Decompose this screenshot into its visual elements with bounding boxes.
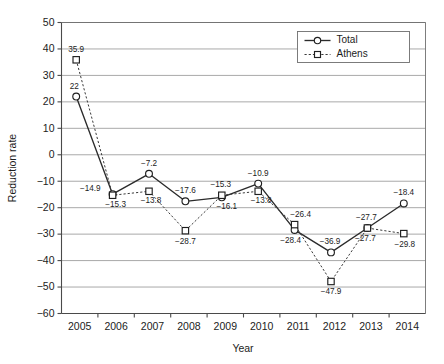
x-tick-label: 2014 [396,320,420,332]
data-point-label: 35.9 [68,45,84,54]
data-point-marker[interactable] [182,227,188,233]
data-point-label: −16.1 [216,202,237,211]
data-point-marker[interactable] [73,93,80,100]
data-point-label: −13.8 [251,196,272,205]
x-tick-label: 2006 [104,320,128,332]
x-axis-ticks: 2005200620072008200920102011201220132014 [68,314,419,332]
line-chart: 50403020100−10−20−30−40−50−60 2005200620… [0,0,444,364]
data-point-label: −17.6 [175,186,196,195]
gridlines [62,23,426,314]
legend-marker-circle-icon [314,37,320,43]
data-point-label: −28.4 [280,236,301,245]
data-point-marker[interactable] [182,198,189,205]
chart-figure: 50403020100−10−20−30−40−50−60 2005200620… [0,0,444,364]
x-axis-title: Year [232,342,254,354]
series-markers [73,57,407,285]
data-point-label: −47.9 [321,287,342,296]
data-point-marker[interactable] [109,192,115,198]
x-tick-label: 2008 [177,320,201,332]
y-tick-label: −30 [37,227,55,239]
data-point-marker[interactable] [255,188,261,194]
y-axis-title: Reduction rate [6,134,18,202]
data-point-marker[interactable] [291,221,297,227]
y-tick-label: 50 [43,16,55,28]
data-point-label: −15.3 [210,180,231,189]
data-point-marker[interactable] [73,57,79,63]
data-point-label: −27.7 [356,213,377,222]
y-axis-ticks: 50403020100−10−20−30−40−50−60 [37,16,62,319]
y-tick-label: 20 [43,95,55,107]
data-point-marker[interactable] [401,230,407,236]
data-point-label: −18.4 [393,188,414,197]
legend-label-athens[interactable]: Athens [337,48,368,59]
data-point-marker[interactable] [328,278,334,284]
data-point-label: −36.9 [320,237,341,246]
data-point-marker[interactable] [400,200,407,207]
y-tick-label: −10 [37,175,55,187]
y-tick-label: 0 [49,148,55,160]
y-tick-label: 30 [43,69,55,81]
series-line-total [76,97,404,253]
data-point-label: 22 [70,82,80,91]
y-tick-label: 40 [43,42,55,54]
x-tick-label: 2011 [287,320,310,332]
data-point-label: −28.7 [175,237,196,246]
data-point-marker[interactable] [146,188,152,194]
data-point-label: −15.3 [105,200,126,209]
y-tick-label: −60 [37,307,55,319]
x-tick-label: 2009 [214,320,238,332]
y-tick-label: −20 [37,201,55,213]
x-tick-label: 2007 [141,320,165,332]
y-tick-label: 10 [43,122,55,134]
data-point-label: −27.7 [355,234,376,243]
data-point-marker[interactable] [364,225,370,231]
data-point-label: −14.9 [80,184,101,193]
x-tick-label: 2013 [359,320,383,332]
x-tick-label: 2005 [68,320,92,332]
data-point-label: −26.4 [290,210,311,219]
legend-label-total[interactable]: Total [337,34,358,45]
series-lines [76,60,404,282]
legend-marker-square-icon [315,52,321,58]
y-tick-label: −50 [37,280,55,292]
data-point-labels: 22−14.9−7.2−17.6−16.1−10.9−28.4−36.9−27.… [68,45,415,297]
data-point-label: −7.2 [141,159,158,168]
data-point-label: −13.8 [141,196,162,205]
y-tick-label: −40 [37,254,55,266]
data-point-label: −29.8 [394,240,415,249]
data-point-marker[interactable] [146,170,153,177]
x-tick-label: 2012 [323,320,347,332]
plot-frame [62,23,426,314]
data-point-marker[interactable] [219,192,225,198]
data-point-marker[interactable] [255,180,262,187]
series-line-athens [76,60,404,282]
chart-legend[interactable]: TotalAthens [298,32,410,63]
data-point-label: −10.9 [248,169,269,178]
x-tick-label: 2010 [250,320,274,332]
data-point-marker[interactable] [328,249,335,256]
